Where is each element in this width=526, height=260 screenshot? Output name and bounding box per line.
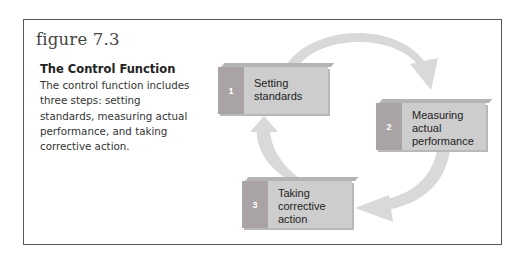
step-setting-standards: 1 Settingstandards — [218, 67, 328, 114]
step-number: 2 — [376, 103, 402, 150]
step-number: 1 — [218, 67, 244, 114]
arrow-step3-to-step1-icon — [250, 116, 300, 181]
step-label: Settingstandards — [244, 67, 328, 114]
step-corrective-action: 3 Takingcorrectiveaction — [242, 181, 352, 228]
step-label: Takingcorrectiveaction — [268, 181, 352, 228]
step-label: Measuringactualperformance — [402, 103, 486, 150]
arrow-step2-to-step3-icon — [355, 150, 450, 222]
step-measuring-performance: 2 Measuringactualperformance — [376, 103, 486, 150]
step-number: 3 — [242, 181, 268, 228]
